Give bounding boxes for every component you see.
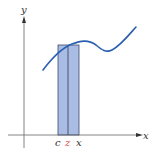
function-curve (43, 27, 136, 70)
x-axis-label: x (143, 130, 149, 141)
c-tick-label: c (55, 137, 61, 148)
z-tick-label: z (64, 137, 71, 148)
x-tick-label: x (76, 137, 82, 148)
mean-value-diagram: y x c z x (0, 0, 161, 154)
y-axis-label: y (20, 4, 27, 15)
y-axis-arrow-icon (22, 16, 26, 23)
x-axis-arrow-icon (136, 133, 143, 137)
area-rectangle (58, 45, 79, 135)
